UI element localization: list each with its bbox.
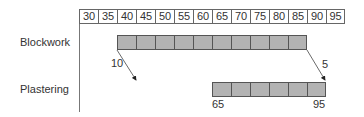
plastering-start-label: 65	[212, 98, 224, 110]
plastering-end-label: 95	[313, 98, 325, 110]
ff-lag-label: 5	[322, 58, 328, 70]
dependency-arrows	[0, 0, 364, 117]
precedence-gantt-diagram: 30 35 40 45 50 55 60 65 70 75 80 85 90 9…	[0, 0, 364, 117]
ss-lag-label: 10	[111, 57, 123, 69]
